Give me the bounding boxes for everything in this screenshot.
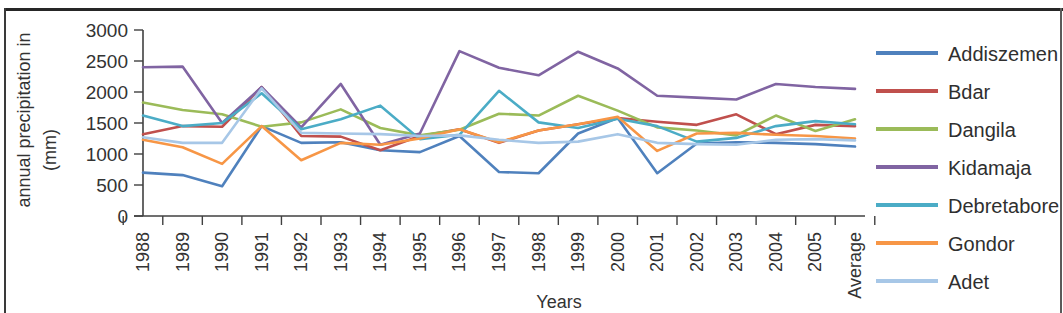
y-tick-label: 500 [96, 175, 128, 196]
y-tick-label: 1500 [86, 113, 128, 134]
x-axis-title: Years [536, 292, 581, 312]
y-tick-label: 3000 [86, 20, 128, 41]
x-category-label: 1999 [568, 232, 588, 272]
x-category-label: 1993 [331, 232, 351, 272]
x-category-label: 2000 [608, 232, 628, 272]
legend-label-bdar[interactable]: Bdar [948, 81, 991, 103]
x-category-label: 1997 [489, 232, 509, 272]
legend-label-addiszemen[interactable]: Addiszemen [948, 43, 1058, 65]
x-category-label: 1991 [252, 232, 272, 272]
y-tick-label: 2000 [86, 82, 128, 103]
x-category-label: 2001 [647, 232, 667, 272]
legend-label-dangila[interactable]: Dangila [948, 119, 1017, 141]
y-axis-title-line2: (mm) [40, 129, 60, 171]
x-category-label: 2003 [726, 232, 746, 272]
legend-label-gondor[interactable]: Gondor [948, 233, 1015, 255]
y-axis-title-line1: annual precipitation in [14, 32, 34, 207]
x-category-label: 2002 [687, 232, 707, 272]
x-category-label: 1989 [173, 232, 193, 272]
x-category-label: 1995 [410, 232, 430, 272]
legend-label-debretabore[interactable]: Debretabore [948, 195, 1059, 217]
x-category-label: 1998 [529, 232, 549, 272]
legend-label-kidamaja[interactable]: Kidamaja [948, 157, 1032, 179]
legend-label-adet[interactable]: Adet [948, 271, 990, 293]
line-chart: 0500100015002000250030001988198919901991… [0, 0, 1063, 313]
x-category-label: 1994 [370, 232, 390, 272]
x-category-label: 2005 [805, 232, 825, 272]
x-category-label: 1992 [291, 232, 311, 272]
chart-figure: 0500100015002000250030001988198919901991… [0, 0, 1063, 313]
x-category-label: 1988 [133, 232, 153, 272]
y-tick-label: 2500 [86, 51, 128, 72]
x-category-label: Average [845, 232, 865, 299]
y-tick-label: 1000 [86, 144, 128, 165]
x-category-label: 2004 [766, 232, 786, 272]
x-category-label: 1996 [449, 232, 469, 272]
x-category-label: 1990 [212, 232, 232, 272]
